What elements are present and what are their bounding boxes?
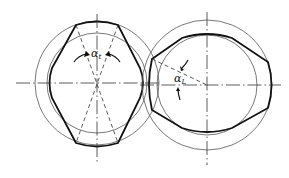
right-rotor: αL: [140, 12, 281, 165]
left-rotor: αt: [16, 14, 160, 162]
right-arrowhead-bottom: [176, 87, 180, 91]
rotor-diagram: αt αL: [0, 0, 289, 178]
left-angle-arrow-right: [109, 54, 120, 62]
alpha-t-label: αt: [91, 47, 101, 61]
right-rotor-profile: [149, 34, 272, 132]
right-angle-arrow-top: [182, 60, 188, 68]
left-rotor-profile: [50, 22, 144, 147]
left-angle-arrow-left: [74, 54, 86, 62]
